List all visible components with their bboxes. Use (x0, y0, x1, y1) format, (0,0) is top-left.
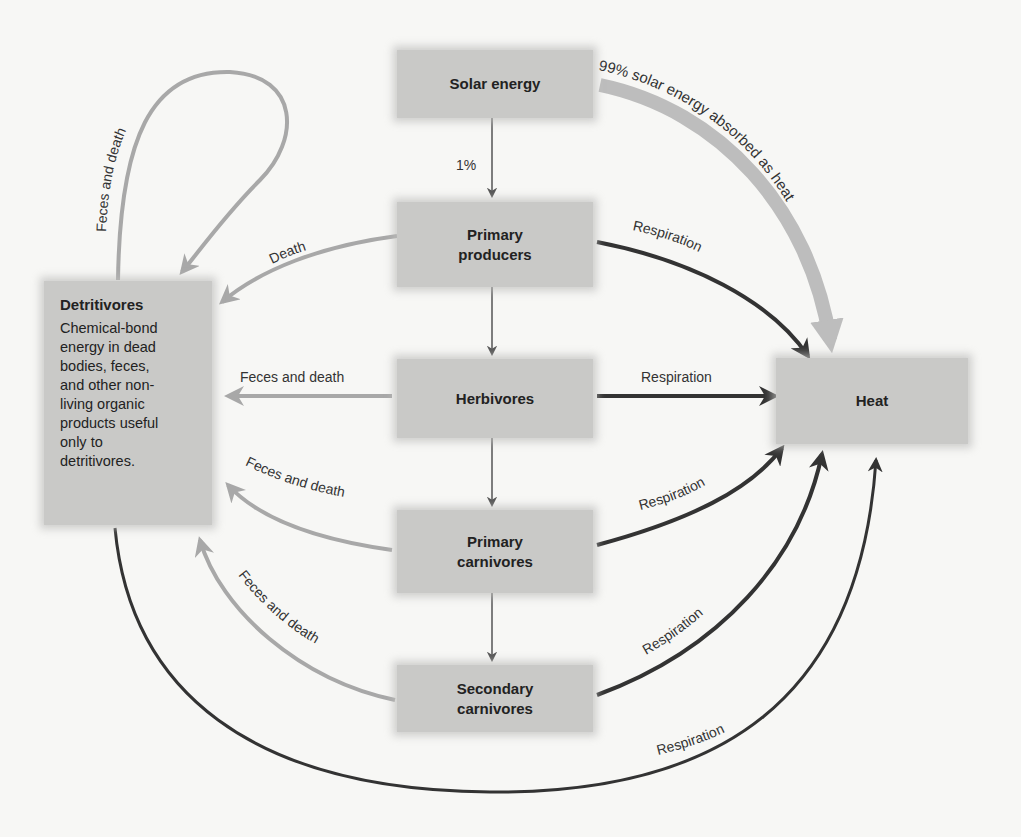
node-detritivores: Detritivores Chemical-bond energy in dea… (44, 281, 212, 525)
node-heat-label: Heat (856, 391, 889, 411)
node-solar-energy: Solar energy (397, 50, 593, 118)
arrow-detritivores-self-loop (118, 72, 287, 280)
arrow-secondary-carnivores-respiration (597, 454, 822, 695)
arrow-primary-carnivores-feces-death (228, 485, 392, 550)
node-primary-carnivores: Primary carnivores (397, 510, 593, 593)
arrow-producers-death (222, 236, 397, 302)
node-primary-carnivores-label: Primary carnivores (457, 532, 533, 572)
label-secondary-carnivores-respiration: Respiration (640, 604, 706, 657)
node-herbivores-label: Herbivores (456, 389, 534, 409)
arrow-producers-respiration (597, 242, 808, 356)
label-herbivores-feces-death: Feces and death (240, 369, 344, 385)
node-detritivores-title: Detritivores (60, 295, 212, 315)
label-solar-to-producers: 1% (456, 157, 476, 173)
node-herbivores: Herbivores (397, 359, 593, 438)
node-secondary-carnivores: Secondary carnivores (397, 665, 593, 732)
node-primary-producers-label: Primary producers (458, 225, 531, 265)
node-secondary-carnivores-label: Secondary carnivores (457, 679, 534, 719)
label-herbivores-respiration: Respiration (641, 369, 712, 385)
node-solar-energy-label: Solar energy (450, 74, 541, 94)
node-detritivores-description: Chemical-bond energy in dead bodies, fec… (60, 319, 212, 471)
node-heat: Heat (776, 358, 968, 444)
label-primary-carnivores-feces-death: Feces and death (244, 453, 347, 500)
label-primary-carnivores-respiration: Respiration (637, 473, 707, 513)
node-primary-producers: Primary producers (397, 202, 593, 287)
label-secondary-carnivores-feces-death: Feces and death (236, 567, 323, 646)
label-producers-respiration: Respiration (632, 217, 705, 255)
label-detritivores-self-loop: Feces and death (93, 125, 129, 232)
label-detritivores-respiration: Respiration (655, 720, 727, 758)
